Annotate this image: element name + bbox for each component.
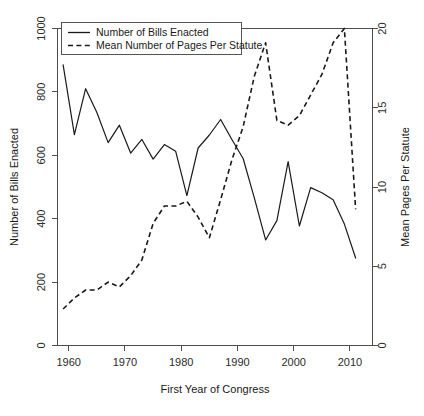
x-axis-title: First Year of Congress [161, 383, 270, 395]
left-tick-label-600: 600 [35, 146, 47, 164]
right-tick-label-20: 20 [376, 22, 388, 34]
series-bills-enacted [63, 65, 356, 258]
x-tick-label-2010: 2010 [338, 356, 362, 368]
left-tick-label-0: 0 [35, 342, 47, 348]
left-tick-label-200: 200 [35, 273, 47, 291]
right-tick-label-10: 10 [376, 181, 388, 193]
series-mean-pages [63, 29, 356, 310]
x-tick-label-1960: 1960 [56, 356, 80, 368]
chart-legend: Number of Bills Enacted Mean Number of P… [62, 23, 263, 55]
x-tick-label-1980: 1980 [169, 356, 193, 368]
x-axis-labels: 1960 1970 1980 1990 2000 2010 [56, 356, 362, 368]
chart-container: 0 200 400 600 800 1000 Number of Bills E… [0, 0, 424, 416]
left-tick-label-1000: 1000 [35, 16, 47, 40]
x-axis-ticks [69, 346, 350, 352]
plot-frame [58, 29, 373, 346]
legend-label-mean-pages: Mean Number of Pages Per Statute [96, 39, 262, 51]
x-tick-label-2000: 2000 [281, 356, 305, 368]
line-chart: 0 200 400 600 800 1000 Number of Bills E… [0, 0, 424, 416]
left-tick-label-400: 400 [35, 210, 47, 228]
right-tick-label-5: 5 [376, 263, 388, 269]
y-axis-title: Number of Bills Enacted [8, 128, 20, 246]
right-tick-label-15: 15 [376, 102, 388, 114]
right-tick-label-0: 0 [376, 342, 388, 348]
left-axis-labels: 0 200 400 600 800 1000 [35, 16, 47, 348]
y2-axis-title: Mean Pages Per Statute [399, 127, 411, 247]
left-tick-label-800: 800 [35, 83, 47, 101]
x-tick-label-1970: 1970 [113, 356, 137, 368]
left-axis-ticks [52, 29, 58, 346]
legend-label-bills-enacted: Number of Bills Enacted [96, 26, 209, 38]
x-tick-label-1990: 1990 [225, 356, 249, 368]
right-axis-labels: 0 5 10 15 20 [376, 22, 388, 348]
